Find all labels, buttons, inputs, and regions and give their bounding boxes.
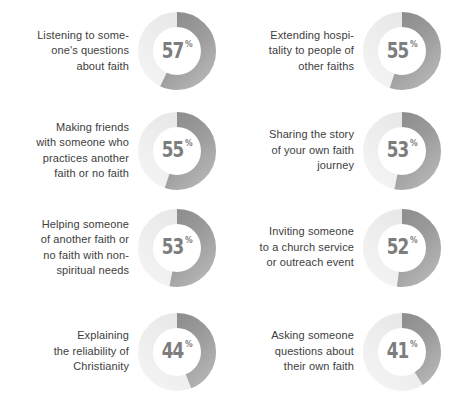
stat-item: Helping someone of another faith or no f… xyxy=(0,199,225,296)
donut-chart: 55% xyxy=(363,12,441,90)
stat-label: Listening to some- one's questions about… xyxy=(8,28,138,75)
stat-label: Helping someone of another faith or no f… xyxy=(8,217,138,279)
stat-item: Making friends with someone who practice… xyxy=(0,102,225,199)
stat-label: Making friends with someone who practice… xyxy=(8,120,138,182)
stat-item: Inviting someone to a church service or … xyxy=(225,199,450,296)
donut-chart: 53% xyxy=(363,112,441,190)
stat-label: Extending hospi- tality to people of oth… xyxy=(233,28,363,75)
stat-item: Sharing the story of your own faith jour… xyxy=(225,102,450,199)
donut-chart: 41% xyxy=(363,313,441,391)
stat-item: Explaining the reliability of Christiani… xyxy=(0,296,225,407)
stat-item: Listening to some- one's questions about… xyxy=(0,0,225,102)
stat-label: Sharing the story of your own faith jour… xyxy=(233,127,363,174)
donut-chart: 52% xyxy=(363,209,441,287)
donut-chart: 55% xyxy=(138,112,216,190)
stat-label: Asking someone questions about their own… xyxy=(233,328,363,375)
donut-chart-grid: Listening to some- one's questions about… xyxy=(0,0,450,407)
stat-item: Asking someone questions about their own… xyxy=(225,296,450,407)
stat-label: Inviting someone to a church service or … xyxy=(233,224,363,271)
stat-label: Explaining the reliability of Christiani… xyxy=(8,328,138,375)
stat-item: Extending hospi- tality to people of oth… xyxy=(225,0,450,102)
donut-chart: 57% xyxy=(138,12,216,90)
donut-chart: 53% xyxy=(138,209,216,287)
donut-chart: 44% xyxy=(138,313,216,391)
